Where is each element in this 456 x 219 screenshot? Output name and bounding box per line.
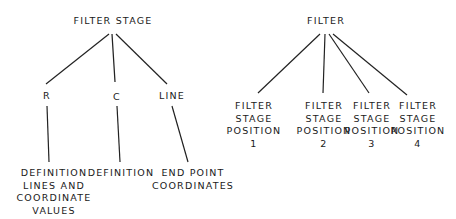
label-line: STAGE — [227, 113, 282, 126]
label-line: STAGE — [297, 113, 352, 126]
node-line: LINE — [159, 90, 185, 103]
root-filter: FILTER — [307, 15, 345, 28]
label-line: POSITION — [297, 125, 352, 138]
filter-stage-position-4: FILTER STAGE POSITION 4 — [391, 100, 446, 150]
leaf-c: DEFINITION — [88, 167, 155, 180]
leaf-r-line: LINES AND — [17, 180, 92, 193]
label-line: 2 — [297, 138, 352, 151]
label-line: FILTER — [227, 100, 282, 113]
label-line: 1 — [227, 138, 282, 151]
leaf-line-line: END POINT — [152, 167, 234, 180]
label-line: 4 — [391, 138, 446, 151]
node-r: R — [43, 90, 51, 103]
leaf-r-line: COORDINATE — [17, 192, 92, 205]
leaf-c-line: DEFINITION — [88, 167, 155, 180]
label-line: FILTER — [297, 100, 352, 113]
leaf-r-line: DEFINITION — [17, 167, 92, 180]
root-filter-stage: FILTER STAGE — [74, 15, 153, 28]
filter-stage-position-2: FILTER STAGE POSITION 2 — [297, 100, 352, 150]
leaf-line-line: COORDINATES — [152, 180, 234, 193]
label-line: POSITION — [227, 125, 282, 138]
leaf-r-line: VALUES — [17, 205, 92, 218]
leaf-r: DEFINITION LINES AND COORDINATE VALUES — [17, 167, 92, 217]
filter-stage-position-1: FILTER STAGE POSITION 1 — [227, 100, 282, 150]
label-line: POSITION — [391, 125, 446, 138]
leaf-line: END POINT COORDINATES — [152, 167, 234, 192]
label-line: STAGE — [391, 113, 446, 126]
node-c: C — [113, 91, 121, 104]
label-line: FILTER — [391, 100, 446, 113]
